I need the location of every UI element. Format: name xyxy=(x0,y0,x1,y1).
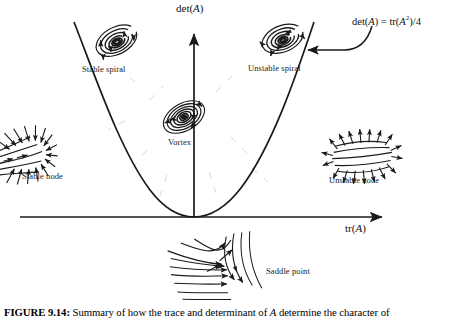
saddle-point-phase-portrait xyxy=(167,231,263,308)
y-axis-label: det(A) xyxy=(176,2,204,14)
axis-lines xyxy=(20,34,382,217)
parabola-formula-label: det(A) = tr(A2)/4 xyxy=(352,14,421,27)
y-axis-label-post: ) xyxy=(200,2,204,14)
y-axis-label-italic: A xyxy=(193,2,200,14)
figure-container: det(A) tr(A) det(A) = tr(A2)/4 Stable sp… xyxy=(0,0,462,327)
formula-lhs-pre: det( xyxy=(352,16,368,27)
label-saddle-point: Saddle point xyxy=(266,266,310,276)
construction-guides xyxy=(108,62,268,196)
label-stable-spiral: Stable spiral xyxy=(82,64,126,74)
formula-lhs-post: ) = tr( xyxy=(375,16,400,27)
vortex-phase-portrait xyxy=(158,94,210,140)
label-stable-node: Stable node xyxy=(22,171,63,181)
caption-figure-number: FIGURE 9.14: xyxy=(4,306,73,318)
caption-text-second: determine the character of xyxy=(276,306,389,318)
formula-pointer-arrow xyxy=(308,26,372,50)
caption-text-first: Summary of how the trace and determinant… xyxy=(73,306,270,318)
label-vortex: Vortex xyxy=(168,137,191,147)
y-axis-label-pre: det( xyxy=(176,2,193,14)
stable-spiral-phase-portrait xyxy=(91,19,142,63)
x-axis-label-post: ) xyxy=(362,222,366,234)
x-axis-label-pre: tr( xyxy=(345,222,355,234)
unstable-spiral-phase-portrait xyxy=(257,19,307,60)
phase-plane-diagram xyxy=(0,0,462,327)
formula-divisor: /4 xyxy=(413,16,421,27)
label-unstable-spiral: Unstable spiral xyxy=(248,63,301,73)
x-axis-label: tr(A) xyxy=(345,222,366,234)
label-unstable-node: Unstable node xyxy=(329,175,379,185)
figure-caption: FIGURE 9.14: Summary of how the trace an… xyxy=(4,306,462,318)
